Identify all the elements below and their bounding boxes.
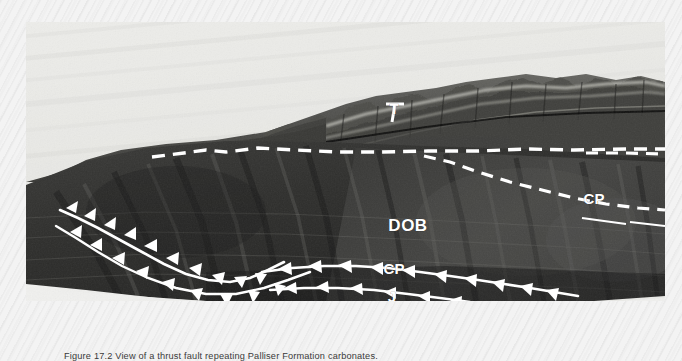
- label-unit-cp-upper: CP: [584, 190, 605, 207]
- label-unit-j: J: [388, 288, 396, 301]
- figure-photograph: T DOB CP CP J: [26, 22, 665, 301]
- label-unit-t: T: [389, 100, 398, 117]
- label-unit-dob: DOB: [388, 216, 427, 235]
- label-unit-cp-lower: CP: [384, 260, 405, 277]
- geology-photo: T DOB CP CP J: [26, 22, 665, 301]
- figure-caption-wrap: Figure 17.2 View of a thrust fault repea…: [64, 351, 664, 361]
- figure-caption: Figure 17.2 View of a thrust fault repea…: [64, 351, 664, 361]
